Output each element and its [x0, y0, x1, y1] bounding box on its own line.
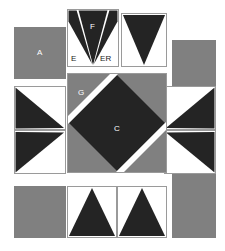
left-triangle-lower-shape: [15, 131, 65, 173]
left-triangle-upper-shape: [15, 87, 65, 129]
triangle-up-shape: [119, 188, 165, 236]
triangle-down-shape: [123, 15, 165, 65]
right-triangle-lower-shape: [165, 131, 215, 173]
left-triangle-upper-square: [14, 86, 66, 130]
top-right-triangle-square: [121, 13, 167, 67]
center-block: [67, 73, 167, 173]
bottom-triangle-right-square: [117, 186, 167, 238]
top-center-flying-geese-shapes: [68, 10, 118, 66]
right-triangle-upper-square: [164, 86, 216, 130]
right-triangle-upper-shape: [165, 87, 215, 129]
triangle-up-shape: [69, 188, 115, 236]
bottom-triangle-left-square: [67, 186, 117, 238]
triangle-right-shape: [15, 87, 64, 128]
quilt-block-diagram: A F E ER: [0, 0, 225, 251]
triangle-left-shape: [166, 87, 215, 128]
triangle-right-shape: [15, 132, 64, 173]
corner-top-left-square: [14, 27, 66, 79]
bottom-triangle-right-shape: [118, 187, 166, 237]
triangle-left-shape: [166, 132, 215, 173]
right-triangle-lower-square: [164, 130, 216, 174]
corner-top-right-rect: [172, 40, 216, 86]
left-triangle-lower-square: [14, 130, 66, 174]
top-center-flying-geese-unit: [67, 9, 119, 67]
corner-bottom-right-rect: [172, 174, 216, 238]
bottom-triangle-left-shape: [68, 187, 116, 237]
corner-bottom-left-square: [14, 186, 66, 238]
top-right-triangle-shape: [122, 14, 166, 66]
center-block-shapes: [67, 73, 167, 173]
